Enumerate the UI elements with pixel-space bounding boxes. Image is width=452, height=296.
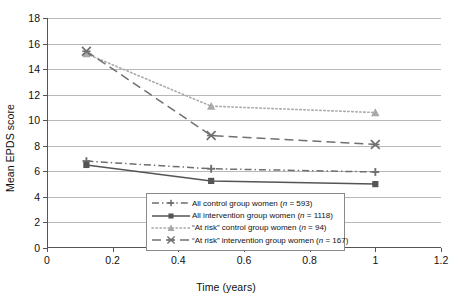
legend-item[interactable]: All intervention group women (n = 1118) [150, 209, 340, 221]
x-tick-mark [47, 248, 48, 252]
data-point-cross-star [371, 140, 380, 149]
series-line-3 [86, 51, 375, 144]
series-line-2 [86, 54, 375, 113]
legend-label: All control group women (n = 593) [192, 199, 312, 208]
y-tick-label: 0 [34, 242, 40, 254]
y-tick-label: 4 [34, 191, 40, 203]
x-tick-label: 1.2 [434, 254, 449, 266]
x-tick-label: 0.4 [171, 254, 186, 266]
legend-item[interactable]: All control group women (n = 593) [150, 197, 340, 209]
data-point-plus [168, 200, 174, 206]
legend-swatch-square-icon [150, 210, 192, 222]
x-tick-label: 0 [44, 254, 50, 266]
data-point-cross-star [167, 237, 174, 244]
x-tick-label: 0.8 [302, 254, 317, 266]
y-tick-label: 12 [28, 89, 40, 101]
legend-item[interactable]: “At risk” intervention group women (n = … [150, 234, 340, 246]
y-axis-title: Mean EPDS score [4, 73, 16, 223]
x-tick-label: 0.6 [237, 254, 252, 266]
series-line-1 [86, 165, 375, 184]
data-point-plus [207, 165, 215, 173]
legend: All control group women (n = 593)All int… [146, 193, 345, 251]
x-axis-title: Time (years) [0, 281, 452, 293]
data-point-plus [371, 168, 379, 176]
y-tick-label: 10 [28, 114, 40, 126]
x-tick-label: 0.2 [105, 254, 120, 266]
y-tick-label: 18 [28, 12, 40, 24]
legend-item[interactable]: “At risk” control group women (n = 94) [150, 222, 340, 234]
y-tick-label: 14 [28, 63, 40, 75]
legend-swatch-triangle-icon [150, 222, 192, 234]
data-point-square [208, 178, 214, 184]
x-tick-mark [441, 248, 442, 252]
data-point-square [83, 162, 89, 168]
legend-label: All intervention group women (n = 1118) [192, 211, 333, 220]
legend-swatch-cross-star-icon [150, 234, 192, 246]
data-point-square [168, 213, 173, 218]
data-point-cross-star [207, 131, 216, 140]
y-tick-label: 2 [34, 216, 40, 228]
x-tick-mark [375, 248, 376, 252]
epds-line-chart: Mean EPDS score 024681012141618 00.20.40… [0, 0, 452, 296]
x-tick-label: 1 [372, 254, 378, 266]
data-point-triangle [207, 102, 215, 110]
x-tick-mark [113, 248, 114, 252]
y-tick-label: 6 [34, 165, 40, 177]
legend-swatch-plus-icon [150, 197, 192, 209]
legend-label: “At risk” intervention group women (n = … [192, 236, 348, 245]
y-tick-label: 16 [28, 38, 40, 50]
data-point-square [372, 181, 378, 187]
y-tick-label: 8 [34, 140, 40, 152]
legend-label: “At risk” control group women (n = 94) [192, 223, 327, 232]
